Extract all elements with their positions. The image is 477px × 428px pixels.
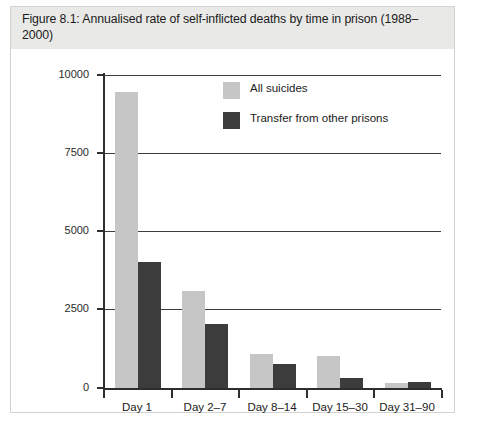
xtick-3	[306, 390, 308, 398]
xlabel-day-2-7: Day 2–7	[171, 401, 239, 413]
ytick-label-7500: 7500	[37, 146, 89, 158]
legend-label-transfer: Transfer from other prisons	[250, 112, 388, 126]
xtick-2	[238, 390, 240, 398]
figure-title-band: Figure 8.1: Annualised rate of self-infl…	[11, 7, 454, 49]
legend-item-all-suicides: All suicides	[223, 82, 388, 99]
bar-transfer-day-1	[138, 262, 161, 388]
xlabel-day-8-14: Day 8–14	[238, 401, 306, 413]
bar-all-suicides-day-1	[115, 92, 138, 388]
ytick-label-2500: 2500	[37, 302, 89, 314]
x-axis-line	[103, 388, 442, 390]
ytick-label-0: 0	[37, 381, 89, 393]
bar-all-suicides-day-15-30	[317, 356, 340, 388]
legend-swatch-icon-transfer	[223, 112, 240, 129]
xlabel-day-31-90: Day 31–90	[373, 401, 441, 413]
bar-all-suicides-day-31-90	[385, 383, 408, 388]
bar-all-suicides-day-2-7	[182, 291, 205, 388]
xtick-0	[103, 390, 105, 398]
figure-panel: Figure 8.1: Annualised rate of self-infl…	[10, 6, 455, 413]
bar-all-suicides-day-8-14	[250, 354, 273, 388]
ytick-label-5000: 5000	[37, 224, 89, 236]
legend-label-all-suicides: All suicides	[250, 82, 308, 96]
legend-item-transfer: Transfer from other prisons	[223, 112, 388, 129]
page-title: Figure 8.1: Annualised rate of self-infl…	[22, 12, 444, 43]
ytick-label-10000: 10000	[37, 68, 89, 80]
xtick-5	[441, 390, 443, 398]
legend: All suicides Transfer from other prisons	[223, 82, 388, 142]
xtick-4	[373, 390, 375, 398]
legend-swatch-icon-all-suicides	[223, 82, 240, 99]
xlabel-day-15-30: Day 15–30	[306, 401, 374, 413]
xtick-1	[171, 390, 173, 398]
bar-transfer-day-31-90	[408, 382, 431, 388]
bar-transfer-day-8-14	[273, 364, 296, 388]
xlabel-day-1: Day 1	[103, 401, 171, 413]
bar-transfer-day-15-30	[340, 378, 363, 388]
bar-transfer-day-2-7	[205, 324, 228, 388]
plot-area: 10000 7500 5000 2500 0 Day 1 Day 2–7	[11, 49, 454, 412]
